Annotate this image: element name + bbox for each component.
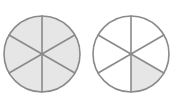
fraction-circles-figure xyxy=(0,0,179,103)
circle-left xyxy=(4,16,80,92)
circle-right xyxy=(93,16,169,92)
fraction-circles-svg xyxy=(0,0,179,103)
